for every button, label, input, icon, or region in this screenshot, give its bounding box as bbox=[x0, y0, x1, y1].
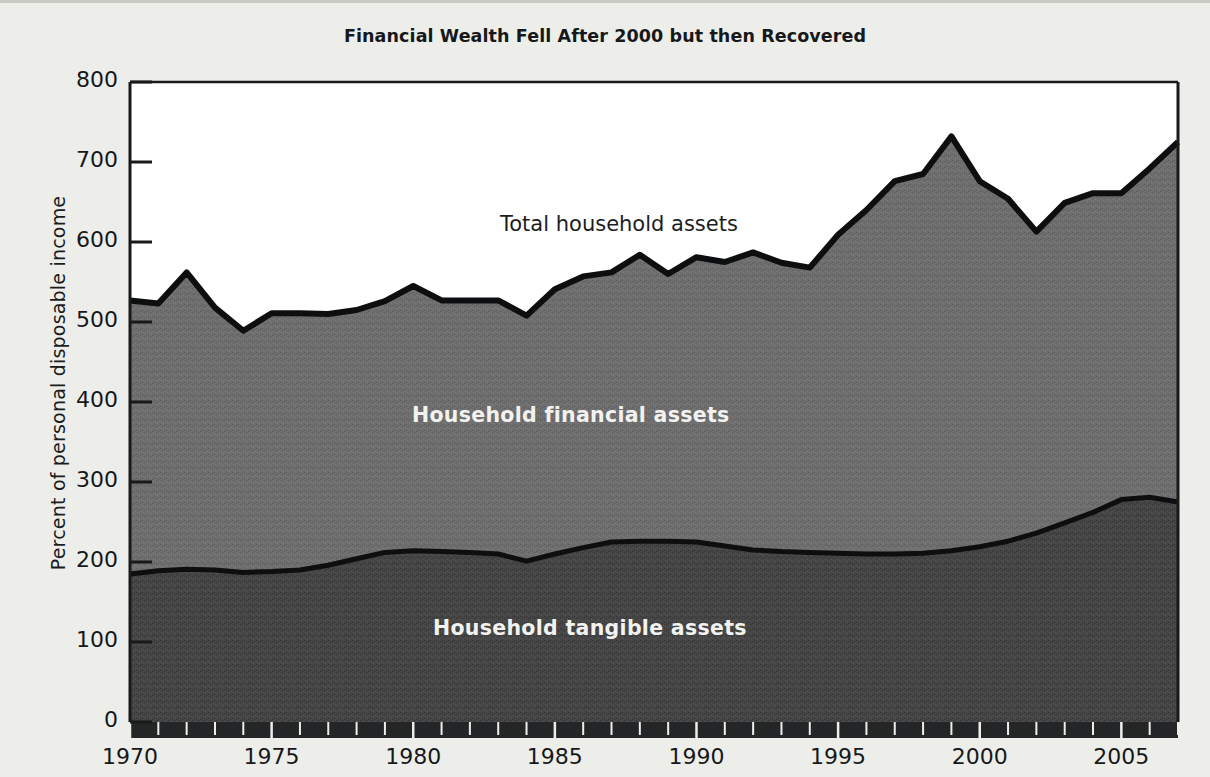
x-tick-label: 1990 bbox=[641, 744, 751, 769]
x-tick-label: 1995 bbox=[783, 744, 893, 769]
x-axis-band bbox=[130, 722, 1178, 738]
x-tick-label: 1970 bbox=[75, 744, 185, 769]
x-tick-label: 1975 bbox=[217, 744, 327, 769]
y-tick-label: 300 bbox=[44, 467, 118, 492]
x-tick-label: 2000 bbox=[925, 744, 1035, 769]
plot-area bbox=[0, 0, 1210, 777]
y-tick-label: 200 bbox=[44, 547, 118, 572]
y-tick-label: 0 bbox=[44, 707, 118, 732]
y-tick-label: 100 bbox=[44, 627, 118, 652]
y-tick-label: 500 bbox=[44, 307, 118, 332]
x-tick-label: 1985 bbox=[500, 744, 610, 769]
series-label-financial: Household financial assets bbox=[412, 403, 730, 427]
x-tick-label: 2005 bbox=[1066, 744, 1176, 769]
x-tick-label: 1980 bbox=[358, 744, 468, 769]
series-label-total: Total household assets bbox=[500, 212, 738, 236]
y-tick-label: 400 bbox=[44, 387, 118, 412]
chart-figure: Financial Wealth Fell After 2000 but the… bbox=[0, 0, 1210, 777]
y-tick-label: 700 bbox=[44, 147, 118, 172]
series-label-tangible: Household tangible assets bbox=[433, 616, 747, 640]
y-tick-label: 600 bbox=[44, 227, 118, 252]
y-tick-label: 800 bbox=[44, 67, 118, 92]
